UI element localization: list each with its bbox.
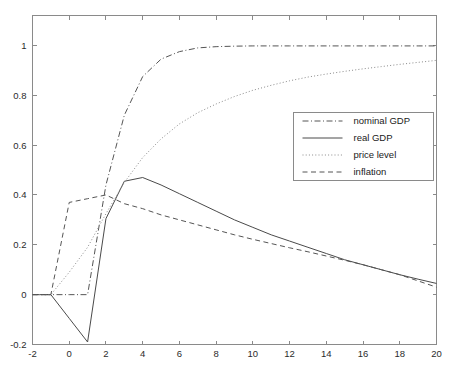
- y-tick-label: 0.8: [13, 90, 26, 101]
- legend-label-real-gdp: real GDP: [354, 132, 393, 143]
- x-tick-label: 6: [177, 348, 182, 359]
- x-tick-label: 16: [358, 348, 369, 359]
- legend-label-inflation: inflation: [354, 166, 387, 177]
- x-tick-label: 14: [321, 348, 332, 359]
- x-tick-label: 20: [431, 348, 442, 359]
- y-tick-label: 0.2: [13, 239, 26, 250]
- y-tick-label: 0.6: [13, 140, 26, 151]
- y-tick-label: -0.2: [10, 339, 26, 350]
- x-tick-label: 10: [248, 348, 259, 359]
- x-tick-label: -2: [28, 348, 36, 359]
- y-tick-label: 0: [21, 289, 26, 300]
- x-tick-label: 0: [67, 348, 72, 359]
- x-tick-label: 8: [213, 348, 218, 359]
- x-tick-label: 2: [103, 348, 108, 359]
- x-tick-label: 18: [394, 348, 405, 359]
- legend-label-price-level: price level: [354, 149, 397, 160]
- chart-legend: nominal GDPreal GDPprice levelinflation: [294, 113, 434, 181]
- x-tick-label: 12: [284, 348, 295, 359]
- line-chart-canvas: -202468101214161820 -0.200.20.40.60.81 n…: [0, 0, 453, 372]
- chart-figure: -202468101214161820 -0.200.20.40.60.81 n…: [0, 0, 453, 372]
- y-tick-label: 1: [21, 40, 26, 51]
- legend-label-nominal-gdp: nominal GDP: [354, 115, 411, 126]
- y-tick-label: 0.4: [13, 189, 26, 200]
- x-tick-label: 4: [140, 348, 145, 359]
